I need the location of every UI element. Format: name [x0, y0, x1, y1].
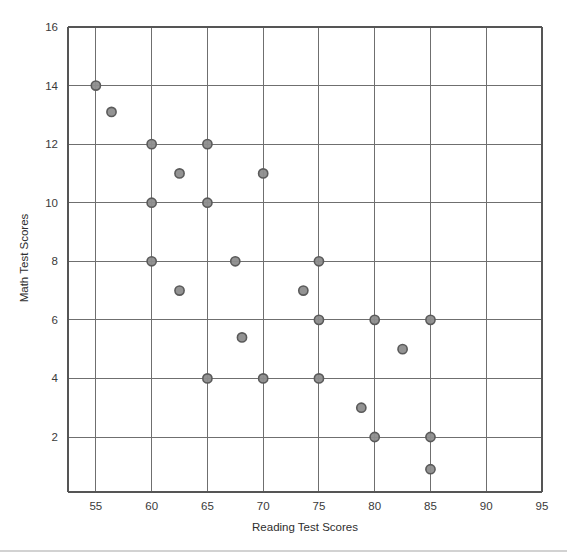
y-tick-label: 4: [52, 372, 59, 384]
data-point: [203, 198, 212, 207]
data-point: [203, 374, 212, 383]
x-tick-label: 75: [313, 500, 326, 512]
x-tick-label: 65: [201, 500, 214, 512]
data-point: [259, 169, 268, 178]
y-tick-labels: 246810121416: [45, 21, 58, 443]
data-point: [426, 315, 435, 324]
data-point: [314, 257, 323, 266]
axis-lines: [68, 27, 542, 492]
y-axis-title: Math Test Scores: [18, 213, 30, 302]
data-point: [370, 432, 379, 441]
y-tick-label: 6: [52, 314, 58, 326]
x-axis-title: Reading Test Scores: [252, 521, 358, 533]
data-point: [203, 140, 212, 149]
data-point: [147, 257, 156, 266]
grid-lines: [68, 27, 542, 492]
data-point: [370, 315, 379, 324]
data-point: [259, 374, 268, 383]
y-tick-label: 16: [45, 21, 58, 33]
x-tick-label: 90: [480, 500, 493, 512]
scatter-chart: 556065707580859095 246810121416 Reading …: [0, 0, 567, 558]
data-point: [426, 432, 435, 441]
data-point: [314, 315, 323, 324]
data-point: [426, 465, 435, 474]
x-tick-label: 70: [257, 500, 270, 512]
y-tick-label: 2: [52, 431, 58, 443]
data-point: [175, 169, 184, 178]
x-tick-label: 95: [536, 500, 549, 512]
data-point: [175, 286, 184, 295]
y-tick-label: 12: [45, 138, 58, 150]
x-tick-labels: 556065707580859095: [89, 500, 548, 512]
x-tick-label: 85: [424, 500, 437, 512]
data-point: [147, 198, 156, 207]
chart-canvas: 556065707580859095 246810121416 Reading …: [0, 0, 567, 558]
data-point: [107, 107, 116, 116]
x-tick-label: 60: [145, 500, 158, 512]
data-point: [398, 345, 407, 354]
data-point: [231, 257, 240, 266]
data-point: [237, 333, 246, 342]
y-tick-label: 8: [52, 255, 58, 267]
data-point: [314, 374, 323, 383]
data-point: [91, 81, 100, 90]
data-point: [299, 286, 308, 295]
data-point: [147, 140, 156, 149]
data-point: [357, 403, 366, 412]
y-tick-label: 10: [45, 197, 58, 209]
y-tick-label: 14: [45, 80, 58, 92]
x-tick-label: 80: [368, 500, 381, 512]
x-tick-label: 55: [89, 500, 102, 512]
